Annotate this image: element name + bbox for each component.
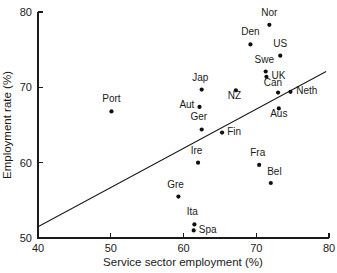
point-label-nz: NZ bbox=[228, 90, 241, 101]
data-point-aut bbox=[197, 105, 201, 109]
point-label-fra: Fra bbox=[250, 147, 265, 158]
point-label-ger: Ger bbox=[190, 111, 207, 122]
point-label-spa: Spa bbox=[199, 224, 217, 235]
x-tick-label-80: 80 bbox=[323, 242, 335, 254]
point-label-us: US bbox=[273, 38, 287, 49]
x-tick-label-60: 60 bbox=[177, 242, 189, 254]
y-tick-label-60: 60 bbox=[20, 157, 32, 169]
point-label-swe: Swe bbox=[255, 54, 275, 65]
x-axis-title: Service sector employment (%) bbox=[103, 256, 263, 268]
point-label-bel: Bel bbox=[267, 166, 281, 177]
scatter-plot-figure: 405060708050607080 NorDenUSSweUKCanNethA… bbox=[0, 0, 337, 273]
point-label-gre: Gre bbox=[167, 179, 184, 190]
y-axis-title: Employment rate (%) bbox=[1, 71, 13, 179]
y-tick-label-80: 80 bbox=[20, 6, 32, 18]
data-point-labels: NorDenUSSweUKCanNethAusJapNZAutPortGerFi… bbox=[102, 7, 317, 235]
data-point-bel bbox=[269, 181, 273, 185]
point-label-ire: Ire bbox=[191, 145, 203, 156]
chart-canvas: 405060708050607080 NorDenUSSweUKCanNethA… bbox=[0, 0, 337, 273]
point-label-neth: Neth bbox=[296, 85, 317, 96]
data-point-us bbox=[278, 54, 282, 58]
x-tick-label-50: 50 bbox=[105, 242, 117, 254]
data-point-fra bbox=[257, 163, 261, 167]
point-label-den: Den bbox=[241, 26, 259, 37]
data-point-can bbox=[276, 91, 280, 95]
data-point-gre bbox=[176, 194, 180, 198]
data-point-port bbox=[109, 109, 113, 113]
data-point-swe bbox=[264, 69, 268, 73]
point-label-aus: Aus bbox=[270, 108, 287, 119]
data-point-den bbox=[248, 42, 252, 46]
y-tick-label-70: 70 bbox=[20, 81, 32, 93]
data-point-nor bbox=[267, 23, 271, 27]
data-point-jap bbox=[200, 87, 204, 91]
data-point-ita bbox=[192, 222, 196, 226]
data-point-ger bbox=[200, 127, 204, 131]
point-label-fin: Fin bbox=[227, 126, 241, 137]
x-tick-label-70: 70 bbox=[250, 242, 262, 254]
regression-line bbox=[38, 72, 326, 227]
point-label-can: Can bbox=[264, 77, 282, 88]
data-point-fin bbox=[220, 130, 224, 134]
point-label-port: Port bbox=[102, 93, 121, 104]
trend-line bbox=[38, 72, 326, 227]
axis-tick-labels: 405060708050607080 bbox=[20, 6, 335, 254]
x-tick-label-40: 40 bbox=[32, 242, 44, 254]
point-label-aut: Aut bbox=[179, 99, 194, 110]
point-label-nor: Nor bbox=[261, 7, 278, 18]
data-point-spa bbox=[192, 228, 196, 232]
point-label-jap: Jap bbox=[192, 72, 209, 83]
y-tick-label-50: 50 bbox=[20, 232, 32, 244]
data-point-ire bbox=[196, 161, 200, 165]
data-point-neth bbox=[288, 90, 292, 94]
point-label-ita: Ita bbox=[187, 206, 199, 217]
